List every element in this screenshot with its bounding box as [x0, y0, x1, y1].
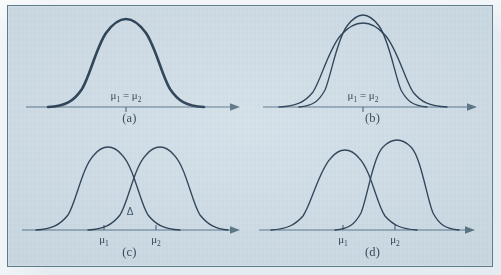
figure-root: μ1 = μ2 (a) μ: [0, 0, 501, 275]
panel-d-axis-group: [259, 225, 475, 234]
panel-c-axis-arrowhead-icon: [230, 226, 240, 234]
panel-a-axis-label: μ1 = μ2: [110, 89, 141, 104]
panel-d-axis-arrowhead-icon: [465, 226, 475, 234]
panel-c-curve-distribution-2: [88, 147, 228, 230]
panel-c-caption: (c): [8, 245, 251, 260]
panel-d: μ1 μ2 (d): [251, 137, 494, 268]
panel-a-caption: (a): [8, 111, 251, 126]
panel-d-caption: (d): [251, 245, 494, 260]
panel-b-axis-label: μ1 = μ2: [347, 89, 378, 104]
panel-b-axis-arrowhead-icon: [467, 103, 477, 111]
panel-b: μ1 = μ2 (b): [251, 6, 494, 137]
panel-c: Δ μ1 μ2 (c): [8, 137, 251, 268]
figure-plate: μ1 = μ2 (a) μ: [7, 5, 493, 267]
panel-b-caption: (b): [251, 111, 494, 126]
panel-d-curve-distribution-1: [271, 150, 417, 230]
panel-a-axis-arrowhead-icon: [230, 103, 240, 111]
panel-c-delta-label: Δ: [127, 206, 134, 217]
panel-c-curve-distribution-1: [36, 147, 180, 230]
panel-a: μ1 = μ2 (a): [8, 6, 251, 137]
panel-grid: μ1 = μ2 (a) μ: [8, 6, 492, 266]
